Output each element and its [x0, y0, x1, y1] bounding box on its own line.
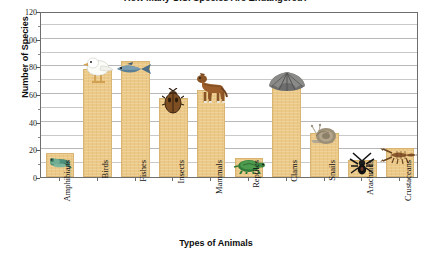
bar-slot [268, 13, 306, 177]
y-axis-tick-labels: 020406080100120 [0, 12, 37, 178]
x-axis-category-label: Arachnids [365, 160, 375, 230]
y-axis-tick-label: 20 [3, 146, 37, 155]
y-axis-tick-label: 40 [3, 118, 37, 127]
bar-slot [306, 13, 344, 177]
x-axis-tick-mark [59, 178, 60, 181]
y-axis-tick-label: 80 [3, 63, 37, 72]
bar-slot [343, 13, 381, 177]
x-axis-tick-mark [248, 178, 249, 181]
y-axis-tick-label: 100 [3, 35, 37, 44]
chart-title: How Many U.S. Species Are Endangered? [0, 0, 432, 3]
y-axis-tick-label: 60 [3, 91, 37, 100]
x-axis-tick-mark [399, 178, 400, 181]
bar-slot [381, 13, 418, 177]
x-axis-tick-mark [97, 178, 98, 181]
bar-slot [154, 13, 192, 177]
x-axis-category-label: Mammals [214, 160, 224, 230]
plot-area [40, 12, 418, 178]
bar-slot [41, 13, 79, 177]
y-axis-tick-label: 0 [3, 174, 37, 183]
bar-slot [117, 13, 155, 177]
x-axis-tick-mark [210, 178, 211, 181]
x-axis-tick-mark [286, 178, 287, 181]
x-axis-category-labels: AmphibiansBirdsFishesInsectsMammalsRepti… [40, 182, 418, 230]
bar-slot [79, 13, 117, 177]
x-axis-category-label: Reptiles [251, 160, 261, 230]
bar-slot [230, 13, 268, 177]
x-axis-tick-mark [135, 178, 136, 181]
x-axis-category-label: Crustaceans [403, 160, 413, 230]
x-axis-category-label: Insects [176, 160, 186, 230]
bar-slot [192, 13, 230, 177]
x-axis-tick-mark [361, 178, 362, 181]
bars-layer [41, 13, 417, 177]
x-axis-category-label: Birds [100, 160, 110, 230]
x-axis-category-label: Fishes [138, 160, 148, 230]
x-axis-category-label: Amphibians [62, 160, 72, 230]
x-axis-tick-mark [172, 178, 173, 181]
x-axis-tick-mark [324, 178, 325, 181]
y-axis-tick-label: 120 [3, 8, 37, 17]
x-axis-category-label: Clams [289, 160, 299, 230]
x-axis-title: Types of Animals [0, 238, 432, 248]
bar-chart-figure: How Many U.S. Species Are Endangered? Nu… [0, 0, 432, 258]
x-axis-category-label: Snails [327, 160, 337, 230]
